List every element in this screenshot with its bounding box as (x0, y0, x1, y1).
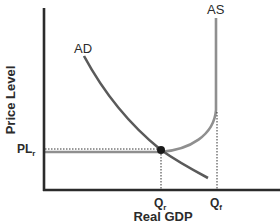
ad-label: AD (74, 41, 92, 56)
as-curve (44, 18, 216, 152)
as-label: AS (207, 2, 225, 17)
price-level-sub: r (32, 149, 35, 158)
qf-label: Qf (210, 196, 222, 212)
ad-as-diagram: AD AS Price Level PLr Qr Qf Real GDP (0, 0, 280, 223)
qr-main: Q (154, 196, 163, 210)
price-level-main: PL (17, 142, 32, 156)
qf-main: Q (210, 196, 219, 210)
x-axis-title: Real GDP (133, 209, 193, 223)
qf-sub: f (219, 203, 222, 212)
equilibrium-point (157, 146, 165, 154)
y-axis-title: Price Level (3, 66, 18, 135)
price-level-label: PLr (17, 142, 35, 158)
ad-curve (84, 56, 208, 178)
